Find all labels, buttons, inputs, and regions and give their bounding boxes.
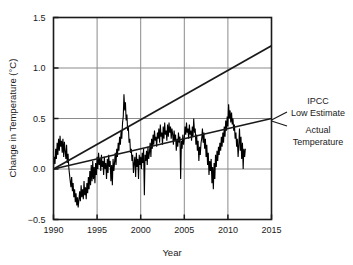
tick-label-y-0: −0.5 xyxy=(28,215,46,225)
tick-label-y-3: 1.0 xyxy=(33,63,46,73)
tick-label-x-5: 2015 xyxy=(261,225,281,235)
tick-label-y-4: 1.5 xyxy=(33,13,46,23)
x-axis-tick-labels: 199019952000200520102015 xyxy=(43,225,281,235)
y-axis-tick-labels: −0.50.00.51.01.5 xyxy=(28,13,46,225)
legend-label-actual-line2: Temperature xyxy=(293,137,344,147)
tick-label-y-2: 0.5 xyxy=(33,114,46,124)
legend-label-ipcc-line2: Low Estimate xyxy=(291,108,345,118)
tick-label-x-0: 1990 xyxy=(43,225,63,235)
temperature-change-line-chart: −0.50.00.51.01.5 19901995200020052010201… xyxy=(0,0,353,265)
legend-label-actual-line1: Actual xyxy=(305,125,330,135)
chart-figure: −0.50.00.51.01.5 19901995200020052010201… xyxy=(0,0,353,265)
tick-label-x-4: 2010 xyxy=(218,225,238,235)
y-axis-title: Change in Temperature (°C) xyxy=(7,59,18,178)
tick-label-x-1: 1995 xyxy=(87,225,107,235)
ipcc-leader-line xyxy=(272,112,288,120)
actual-leader-line xyxy=(272,121,288,126)
tick-label-x-3: 2005 xyxy=(174,225,194,235)
tick-label-y-1: 0.0 xyxy=(33,164,46,174)
x-axis-title: Year xyxy=(162,247,181,258)
legend-label-ipcc-line1: IPCC xyxy=(307,96,329,106)
tick-label-x-2: 2000 xyxy=(131,225,151,235)
